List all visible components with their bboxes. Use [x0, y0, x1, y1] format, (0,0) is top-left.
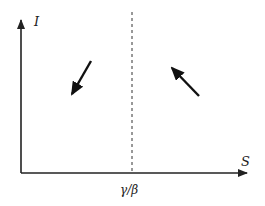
- x-axis-label: S: [241, 155, 250, 168]
- arrow-up-left-icon: [172, 68, 199, 96]
- y-axis-label: I: [34, 15, 39, 28]
- phase-plane-diagram: [0, 0, 265, 206]
- threshold-label: γ/β: [120, 184, 138, 196]
- arrow-down-left-icon: [72, 61, 91, 94]
